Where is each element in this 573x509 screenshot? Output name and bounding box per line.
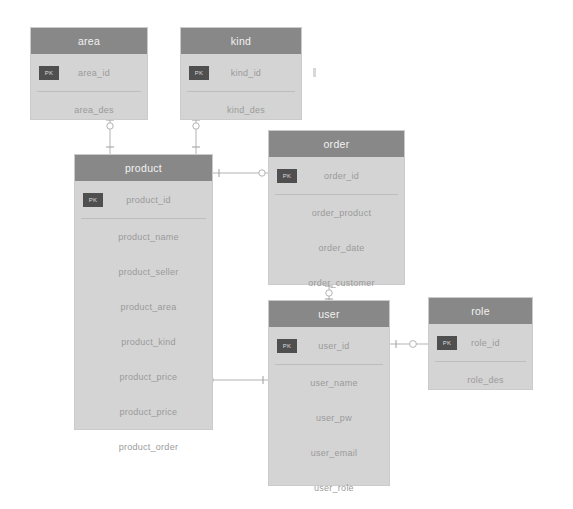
er-diagram-canvas: areaPKarea_idarea_deskindPKkind_idkind_d… [0,0,573,509]
attribute-row[interactable]: product_seller [75,254,212,289]
attribute-name: order_date [269,243,404,253]
attribute-name: role_des [429,375,532,385]
relationship-user-role [390,340,428,348]
attribute-name: product_price [75,407,212,417]
entity-title-user: user [269,301,389,327]
attribute-row[interactable]: product_name [75,219,212,254]
attribute-row[interactable]: product_price [75,359,212,394]
entity-attributes-area: PKarea_idarea_des [31,54,147,127]
attribute-row[interactable]: PKproduct_id [75,181,212,219]
entity-attributes-role: PKrole_idrole_des [429,324,532,397]
attribute-name: order_product [269,208,404,218]
entity-title-role: role [429,298,532,324]
attribute-name: user_name [269,378,389,388]
attribute-row[interactable]: PKuser_id [269,327,389,365]
relationship-product-order [213,169,268,177]
entity-user[interactable]: userPKuser_iduser_nameuser_pwuser_emailu… [268,300,390,486]
stray-mark [313,68,316,77]
attribute-name: user_role [269,483,389,493]
attribute-row[interactable]: product_area [75,289,212,324]
attribute-name: product_order [75,442,212,452]
attribute-row[interactable]: user_pw [269,400,389,435]
primary-key-badge: PK [39,66,59,80]
attribute-name: product_area [75,302,212,312]
entity-attributes-product: PKproduct_idproduct_nameproduct_sellerpr… [75,181,212,464]
entity-title-product: product [75,155,212,181]
attribute-name: product_kind [75,337,212,347]
attribute-row[interactable]: user_name [269,365,389,400]
attribute-name: user_pw [269,413,389,423]
entity-kind[interactable]: kindPKkind_idkind_des [180,27,302,120]
primary-key-badge: PK [277,169,297,183]
attribute-row[interactable]: order_date [269,230,404,265]
attribute-name: product_seller [75,267,212,277]
attribute-row[interactable]: product_order [75,429,212,464]
attribute-name: area_des [31,105,147,115]
attribute-row[interactable]: PKarea_id [31,54,147,92]
attribute-row[interactable]: product_price [75,394,212,429]
attribute-row[interactable]: order_product [269,195,404,230]
entity-attributes-kind: PKkind_idkind_des [181,54,301,127]
entity-role[interactable]: rolePKrole_idrole_des [428,297,533,390]
attribute-row[interactable]: PKrole_id [429,324,532,362]
attribute-row[interactable]: PKorder_id [269,157,404,195]
attribute-name: kind_des [181,105,301,115]
attribute-row[interactable]: role_des [429,362,532,397]
entity-title-area: area [31,28,147,54]
entity-product[interactable]: productPKproduct_idproduct_nameproduct_s… [74,154,213,430]
entity-area[interactable]: areaPKarea_idarea_des [30,27,148,120]
attribute-row[interactable]: PKkind_id [181,54,301,92]
entity-title-order: order [269,131,404,157]
attribute-row[interactable]: product_kind [75,324,212,359]
entity-attributes-user: PKuser_iduser_nameuser_pwuser_emailuser_… [269,327,389,505]
primary-key-badge: PK [83,193,103,207]
attribute-name: product_name [75,232,212,242]
attribute-name: order_customer [269,278,404,288]
entity-title-kind: kind [181,28,301,54]
attribute-row[interactable]: kind_des [181,92,301,127]
entity-order[interactable]: orderPKorder_idorder_productorder_dateor… [268,130,405,285]
attribute-name: product_price [75,372,212,382]
attribute-row[interactable]: user_email [269,435,389,470]
attribute-row[interactable]: area_des [31,92,147,127]
primary-key-badge: PK [437,336,457,350]
attribute-row[interactable]: order_customer [269,265,404,300]
primary-key-badge: PK [277,339,297,353]
attribute-row[interactable]: user_role [269,470,389,505]
primary-key-badge: PK [189,66,209,80]
attribute-name: user_email [269,448,389,458]
entity-attributes-order: PKorder_idorder_productorder_dateorder_c… [269,157,404,300]
